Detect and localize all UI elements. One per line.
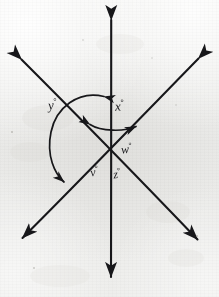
paper-blotches: [10, 34, 204, 287]
screenshot-canvas: y° x° w° v° z°: [0, 0, 219, 297]
speck: [33, 267, 35, 269]
degree-symbol: °: [120, 98, 124, 107]
arc-x-small: [90, 125, 136, 131]
speck: [175, 104, 176, 105]
speck: [82, 39, 84, 41]
angle-label-v: v°: [89, 164, 99, 178]
speck: [151, 57, 152, 58]
speck: [11, 131, 13, 133]
speck: [196, 235, 198, 237]
angle-label-w: w°: [120, 141, 133, 155]
angle-label-z: z°: [112, 167, 121, 181]
angle-label-y: y°: [47, 98, 57, 112]
angle-label-x: x°: [115, 99, 125, 113]
geometry-diagram: [0, 0, 219, 297]
